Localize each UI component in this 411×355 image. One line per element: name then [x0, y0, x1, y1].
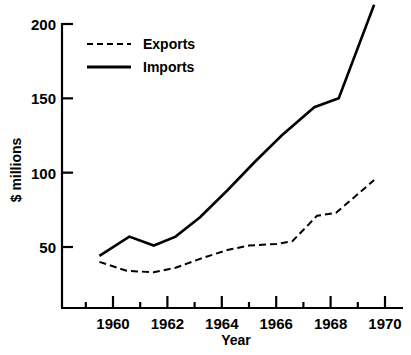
- x-tick-label: 1962: [151, 315, 184, 332]
- legend-label-imports: Imports: [143, 59, 195, 75]
- y-tick-label: 150: [31, 90, 56, 107]
- legend-label-exports: Exports: [143, 36, 195, 52]
- line-chart: $ millions 20015010050 19601962196419661…: [0, 0, 411, 355]
- x-tick-label: 1966: [260, 315, 293, 332]
- y-axis-tick-labels: 20015010050: [31, 16, 56, 256]
- series-line-exports: [99, 180, 374, 272]
- y-axis-title: $ millions: [8, 138, 24, 203]
- chart-container: $ millions 20015010050 19601962196419661…: [0, 0, 411, 355]
- x-axis-title: Year: [221, 332, 251, 348]
- data-series-group: [99, 5, 374, 273]
- chart-legend: Exports Imports: [87, 36, 195, 75]
- y-tick-label: 50: [39, 239, 56, 256]
- x-tick-label: 1970: [368, 315, 401, 332]
- x-tick-label: 1960: [96, 315, 129, 332]
- y-tick-label: 200: [31, 16, 56, 33]
- x-axis-tick-labels: 196019621964196619681970: [96, 315, 401, 332]
- x-tick-label: 1968: [314, 315, 347, 332]
- y-axis-ticks: [62, 24, 73, 247]
- x-tick-label: 1964: [205, 315, 239, 332]
- y-tick-label: 100: [31, 165, 56, 182]
- series-line-imports: [99, 5, 374, 256]
